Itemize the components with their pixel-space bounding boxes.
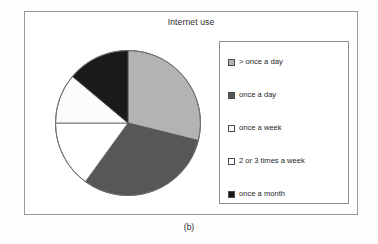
legend-item: once a month: [228, 188, 285, 200]
legend-swatch-once-a-month: [228, 191, 235, 198]
chart-title: Internet use: [25, 17, 357, 27]
legend-swatch-once-a-day: [228, 92, 235, 99]
figure-root: Internet use > once a dayonce a dayonce …: [0, 0, 378, 244]
legend-item-label: once a day: [239, 91, 276, 99]
legend-swatch-greater-than-once-a-day: [228, 59, 235, 66]
pie-chart-svg: [40, 40, 210, 200]
legend-item-label: once a week: [239, 124, 282, 132]
pie-chart: [40, 40, 210, 200]
figure-caption: (b): [0, 222, 378, 232]
pie-slice-group: [56, 51, 201, 196]
legend-item-label: once a month: [239, 190, 285, 198]
legend-item: once a week: [228, 122, 282, 134]
legend-item: > once a day: [228, 56, 283, 68]
legend-swatch-2-or-3-times-a-week: [228, 158, 235, 165]
legend-item-label: > once a day: [239, 58, 283, 66]
chart-frame: Internet use > once a dayonce a dayonce …: [24, 11, 358, 215]
legend-swatch-once-a-week: [228, 125, 235, 132]
legend-item: once a day: [228, 89, 276, 101]
chart-legend: > once a dayonce a dayonce a week2 or 3 …: [219, 41, 349, 204]
legend-item-label: 2 or 3 times a week: [239, 157, 305, 165]
legend-item: 2 or 3 times a week: [228, 155, 305, 167]
